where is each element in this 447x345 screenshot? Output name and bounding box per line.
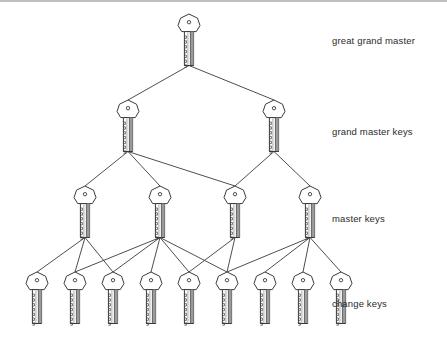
diagram-canvas: great grand master grand master keys mas… (0, 0, 447, 345)
key-icon-great-grand-master-0 (178, 14, 200, 67)
key-icon-change-keys-3 (140, 272, 162, 325)
key-icon-grand-master-keys-0 (117, 100, 139, 153)
key-icon-change-keys-2 (102, 272, 124, 325)
connector-line (85, 238, 113, 273)
connector-line (75, 238, 160, 273)
connector-line (265, 238, 310, 273)
connector-line (37, 238, 85, 273)
row-label-great-grand-master: great grand master (332, 35, 415, 46)
master-key-hierarchy-diagram (0, 0, 447, 345)
connector-lines (37, 66, 341, 273)
connector-line (160, 238, 189, 273)
connector-line (85, 152, 128, 187)
key-icon-change-keys-7 (292, 272, 314, 325)
key-icon-change-keys-5 (216, 272, 238, 325)
row-label-grand-master-keys: grand master keys (332, 126, 413, 137)
connector-line (310, 238, 341, 273)
connector-line (160, 238, 227, 273)
key-icon-change-keys-6 (254, 272, 276, 325)
key-icon-change-keys-0 (26, 272, 48, 325)
key-icon-master-keys-1 (149, 186, 171, 239)
key-icon-master-keys-0 (74, 186, 96, 239)
connector-line (75, 238, 85, 273)
key-icon-master-keys-3 (299, 186, 321, 239)
connector-line (303, 238, 310, 273)
connector-line (235, 152, 274, 187)
row-label-change-keys: change keys (332, 298, 387, 309)
connector-line (128, 66, 189, 101)
key-nodes (26, 14, 352, 325)
key-icon-master-keys-2 (224, 186, 246, 239)
connector-line (113, 238, 160, 273)
key-icon-change-keys-4 (178, 272, 200, 325)
key-icon-change-keys-1 (64, 272, 86, 325)
connector-line (189, 66, 274, 101)
row-label-master-keys: master keys (332, 213, 385, 224)
connector-line (227, 238, 310, 273)
key-icon-grand-master-keys-1 (263, 100, 285, 153)
connector-line (274, 152, 310, 187)
